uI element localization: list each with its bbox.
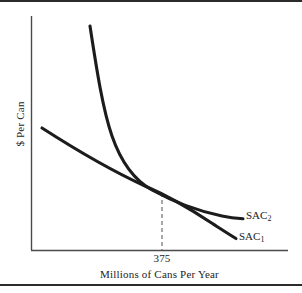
y-axis-title: $ Per Can (14, 84, 26, 164)
series-label-sac1: SAC1 (239, 230, 264, 242)
x-axis-title: Millions of Cans Per Year (31, 268, 288, 280)
series-line-sac1 (42, 128, 236, 239)
series-label-sac2: SAC2 (246, 209, 271, 221)
series-label-sac2-subscript: 2 (267, 214, 271, 223)
chart-plot-area (0, 0, 302, 293)
series-label-sac1-text: SAC (239, 230, 260, 242)
series-label-sac1-subscript: 1 (260, 235, 264, 244)
series-label-sac2-text: SAC (246, 209, 267, 221)
series-line-sac2 (90, 26, 243, 219)
figure-container: $ Per Can Millions of Cans Per Year 375 … (0, 0, 302, 293)
x-tick-label-375: 375 (137, 252, 187, 264)
